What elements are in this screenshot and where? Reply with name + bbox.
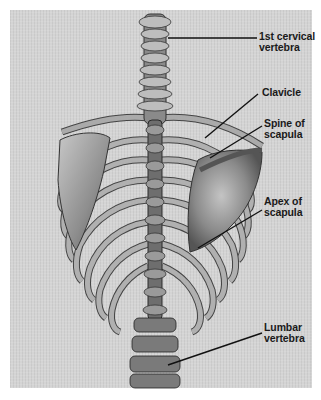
label-line: vertebra [264,333,305,344]
label-lumbar-vertebra: Lumbar vertebra [264,322,305,344]
label-line: scapula [264,129,305,140]
label-line: Clavicle [262,87,301,98]
label-clavicle: Clavicle [262,87,301,98]
label-1st-cervical-vertebra: 1st cervical vertebra [259,31,315,53]
label-apex-of-scapula: Apex of scapula [264,196,302,218]
label-line: vertebra [259,42,315,53]
label-spine-of-scapula: Spine of scapula [264,118,305,140]
label-line: scapula [264,207,302,218]
